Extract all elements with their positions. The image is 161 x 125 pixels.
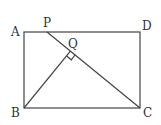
label-c: C xyxy=(143,106,152,120)
rectangle-abcd xyxy=(24,32,140,108)
label-p: P xyxy=(43,16,51,30)
right-angle-marker xyxy=(67,55,75,60)
label-a: A xyxy=(10,25,20,39)
segment-bq xyxy=(24,51,70,108)
label-b: B xyxy=(11,106,20,120)
label-q: Q xyxy=(68,37,78,51)
label-d: D xyxy=(142,19,152,33)
segment-pc xyxy=(47,32,140,108)
geometry-diagram: A P D Q B C xyxy=(0,0,161,125)
